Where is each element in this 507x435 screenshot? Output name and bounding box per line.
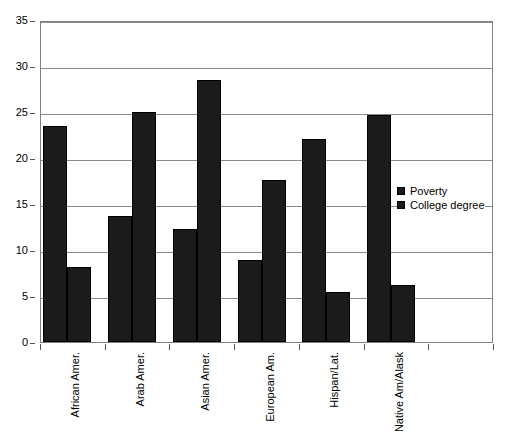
x-axis-category-label: European Am. [265,352,276,422]
x-axis-category-label: Arab Amer. [135,352,146,406]
x-axis-tick-mark [299,344,300,350]
x-axis-tick-mark [493,344,494,350]
x-axis-tick-mark [169,344,170,350]
x-axis-category-label: Hispan/Lat. [329,352,340,408]
x-axis-tick-mark [234,344,235,350]
x-axis-tick-mark [40,344,41,350]
x-axis-category-label: Native Am/Alask [394,352,405,432]
x-axis-tick-mark [364,344,365,350]
x-axis: African Amer.Arab Amer.Asian Amer.Europe… [0,0,507,435]
x-axis-category-label: Asian Amer. [200,352,211,411]
x-axis-tick-mark [105,344,106,350]
x-axis-category-label: African Amer. [70,352,81,417]
x-axis-tick-mark [428,344,429,350]
bar-chart: 05101520253035 Poverty College degree Af… [0,0,507,435]
